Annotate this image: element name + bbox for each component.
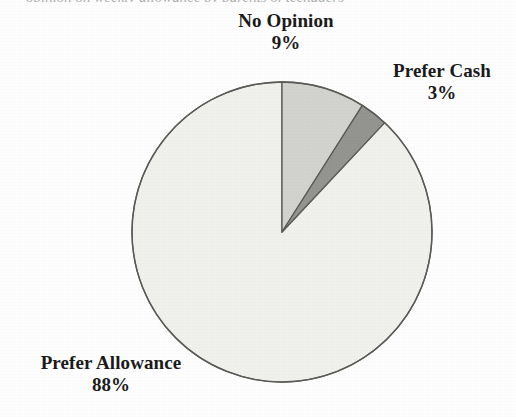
pie-label-prefer-cash-name: Prefer Cash <box>368 60 516 82</box>
pie-label-prefer-allowance-name: Prefer Allowance <box>6 352 216 374</box>
pie-label-prefer-cash-value: 3% <box>368 82 516 104</box>
pie-label-prefer-allowance: Prefer Allowance 88% <box>6 352 216 397</box>
pie-label-no-opinion: No Opinion 9% <box>198 10 374 55</box>
pie-label-no-opinion-name: No Opinion <box>198 10 374 32</box>
pie-label-prefer-cash: Prefer Cash 3% <box>368 60 516 105</box>
pie-label-prefer-allowance-value: 88% <box>6 374 216 396</box>
pie-chart-figure: opinion on weekly allowance by parents o… <box>0 0 516 417</box>
pie-label-no-opinion-value: 9% <box>198 32 374 54</box>
